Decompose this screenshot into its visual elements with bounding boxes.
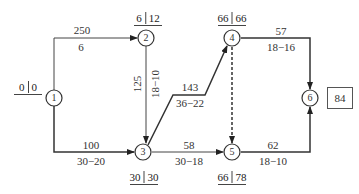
node-1-underline [14, 94, 42, 95]
total-duration-box: 84 [327, 87, 353, 109]
node-1-times: 00 [16, 81, 40, 93]
node-4-late: 66 [233, 12, 250, 24]
node-1-label: 1 [46, 90, 62, 106]
edge-3-5-top: 58 [184, 139, 195, 151]
edge-2-3-bottom: 18−10 [149, 70, 161, 98]
edge-1-3-bottom: 30−20 [77, 155, 105, 167]
node-3-late: 30 [145, 171, 162, 183]
edge-2-3-top: 125 [131, 76, 143, 93]
node-1-late: 0 [29, 81, 41, 93]
node-2-label: 2 [138, 30, 154, 46]
edge-3-4-top: 143 [182, 81, 199, 93]
node-2-times: 612 [133, 12, 163, 24]
node-4-early: 66 [215, 12, 232, 24]
node-4-underline [218, 25, 246, 26]
node-5-times: 6678 [215, 171, 250, 183]
node-2-underline [134, 25, 162, 26]
edge-1-2-bottom: 6 [78, 41, 84, 53]
node-1-early: 0 [16, 81, 28, 93]
node-3-times: 3030 [127, 171, 162, 183]
edge-4-6-bottom: 18−16 [267, 41, 295, 53]
edge-5-6-top: 62 [268, 139, 279, 151]
edge-1-2-top: 250 [74, 24, 91, 36]
node-4-label: 4 [224, 30, 240, 46]
edge-3-4-bottom: 36−22 [176, 97, 204, 109]
node-2-late: 12 [146, 12, 163, 24]
node-3-underline [130, 184, 158, 185]
node-4-times: 6666 [215, 12, 250, 24]
node-5-early: 66 [215, 171, 232, 183]
edge-4-6-top: 57 [276, 25, 287, 37]
edge-1-2 [54, 38, 137, 90]
edge-5-6-bottom: 18−10 [259, 155, 287, 167]
edge-3-5-bottom: 30−18 [175, 155, 203, 167]
node-5-underline [218, 184, 246, 185]
node-2-early: 6 [133, 12, 145, 24]
node-5-late: 78 [233, 171, 250, 183]
node-5-label: 5 [224, 144, 240, 160]
edge-1-3-top: 100 [83, 139, 100, 151]
node-3-label: 3 [135, 144, 151, 160]
node-6-label: 6 [302, 90, 318, 106]
node-3-early: 30 [127, 171, 144, 183]
